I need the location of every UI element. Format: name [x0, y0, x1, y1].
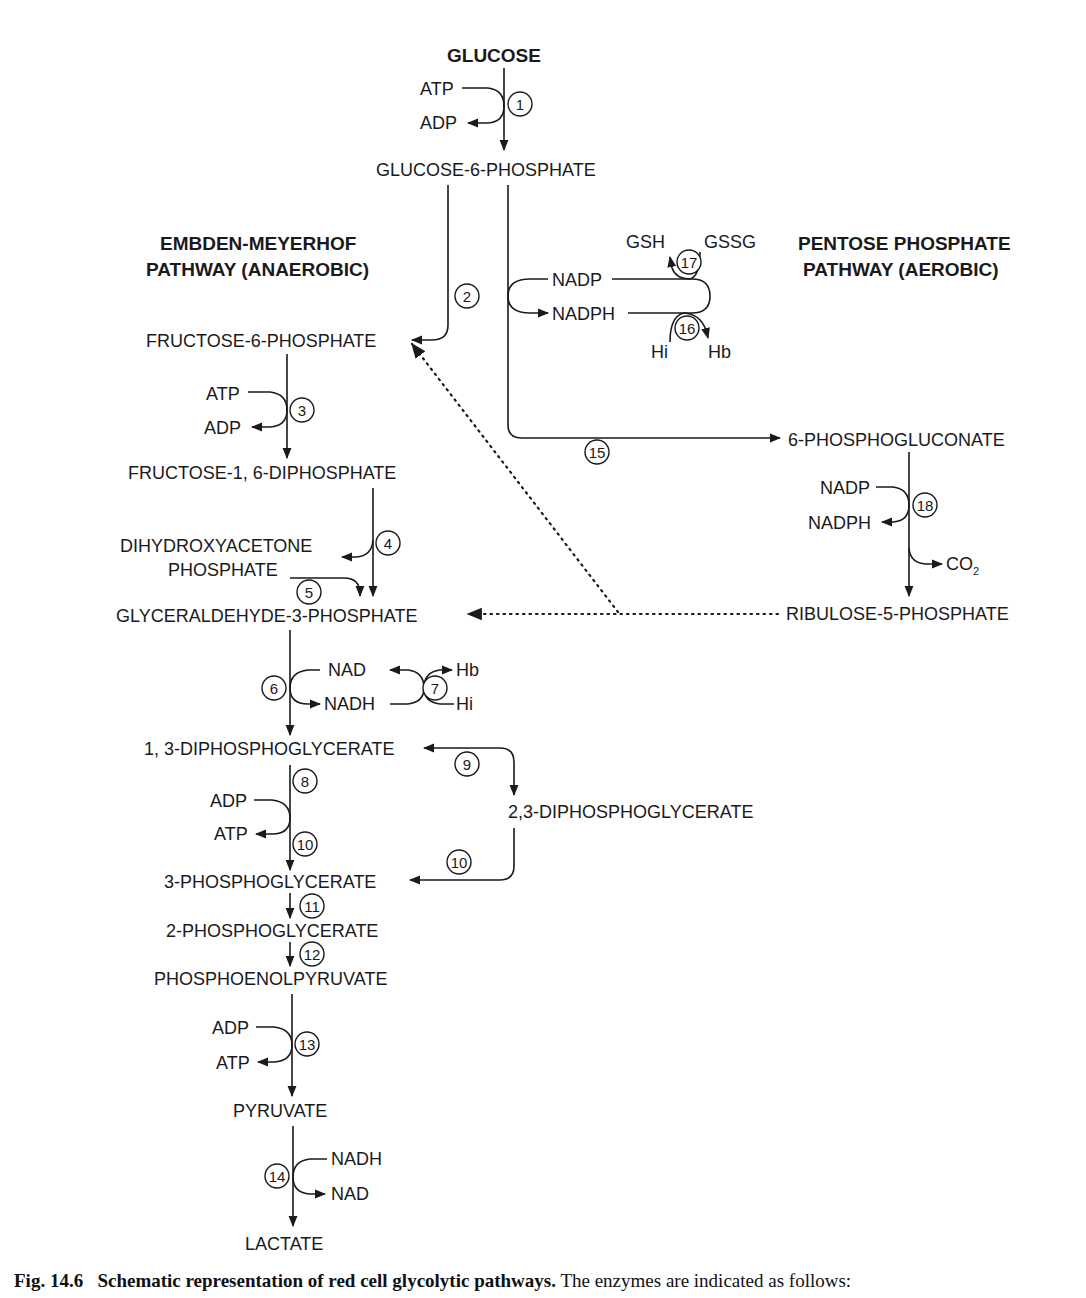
metabolite-2pg: 2-PHOSPHOGLYCERATE: [166, 921, 378, 941]
enzyme-label-7: 7: [431, 680, 439, 697]
metabolite-g6p: GLUCOSE-6-PHOSPHATE: [376, 160, 596, 180]
enzyme-label-18: 18: [917, 497, 934, 514]
nadp-nadph-cycle-line: [612, 279, 710, 313]
enzyme-label-16: 16: [679, 320, 696, 337]
cofactor-hi-7: Hi: [456, 694, 473, 714]
arrow-nadh-to-nad-7: [390, 670, 424, 704]
enzyme-label-6: 6: [270, 680, 278, 697]
cofactor-nadp-18: NADP: [820, 478, 870, 498]
metabolite-pep: PHOSPHOENOLPYRUVATE: [154, 969, 387, 989]
arrow-nadp-nadph-18: [876, 487, 909, 522]
arrow-nadp-to-nadph: [508, 279, 548, 313]
enzyme-label-4: 4: [384, 535, 392, 552]
dotted-arrow-ribulose-to-f6p: [412, 344, 618, 612]
cofactor-atp-13: ATP: [216, 1053, 250, 1073]
glycolytic-pathway-diagram: GLUCOSE EMBDEN-MEYERHOF PATHWAY (ANAEROB…: [0, 0, 1086, 1298]
enzyme-label-17: 17: [681, 254, 698, 271]
enzyme-label-5: 5: [305, 584, 313, 601]
cofactor-adp-13: ADP: [212, 1018, 249, 1038]
arrow-adp-atp-8: [254, 800, 290, 834]
metabolite-23dpg: 2,3-DIPHOSPHOGLYCERATE: [508, 802, 753, 822]
metabolite-f6p: FRUCTOSE-6-PHOSPHATE: [146, 331, 376, 351]
enzyme-label-9: 9: [463, 756, 471, 773]
cofactor-co2: CO2: [946, 554, 979, 577]
cofactor-gssg: GSSG: [704, 232, 756, 252]
heading-glucose: GLUCOSE: [447, 45, 541, 66]
enzyme-label-3: 3: [298, 402, 306, 419]
metabolite-6-phosphogluconate: 6-PHOSPHOGLUCONATE: [788, 430, 1005, 450]
cofactor-nad-14: NAD: [331, 1184, 369, 1204]
cofactor-atp-1: ATP: [420, 79, 454, 99]
enzyme-label-14: 14: [269, 1168, 286, 1185]
metabolite-pyruvate: PYRUVATE: [233, 1101, 327, 1121]
metabolite-13dpg: 1, 3-DIPHOSPHOGLYCERATE: [144, 739, 394, 759]
cofactor-nadph-loop: NADPH: [552, 304, 615, 324]
cofactor-nadh-14: NADH: [331, 1149, 382, 1169]
enzyme-label-8: 8: [301, 773, 309, 790]
cofactor-nad-6: NAD: [328, 660, 366, 680]
arrow-co2-release: [909, 548, 942, 564]
heading-ppp-line1: PENTOSE PHOSPHATE: [798, 233, 1011, 254]
cofactor-nadp-loop: NADP: [552, 270, 602, 290]
cofactor-adp-3: ADP: [204, 418, 241, 438]
enzyme-label-15: 15: [589, 444, 606, 461]
arrow-atp-adp-3: [248, 392, 287, 427]
enzyme-label-2: 2: [463, 288, 471, 305]
metabolite-3pg: 3-PHOSPHOGLYCERATE: [164, 872, 376, 892]
caption-text: The enzymes are indicated as follows:: [560, 1270, 851, 1291]
arrow-atp-adp-1: [462, 88, 504, 123]
cofactor-gsh: GSH: [626, 232, 665, 252]
metabolite-lactate: LACTATE: [245, 1234, 323, 1254]
cofactor-adp-8: ADP: [210, 791, 247, 811]
caption-label: Fig. 14.6: [14, 1270, 83, 1291]
enzyme-label-11: 11: [304, 898, 320, 915]
cofactor-hb-7: Hb: [456, 660, 479, 680]
cofactor-adp-1: ADP: [420, 113, 457, 133]
enzyme-label-12: 12: [304, 946, 321, 963]
metabolite-ribulose-5-phosphate: RIBULOSE-5-PHOSPHATE: [786, 604, 1009, 624]
heading-emp-line2: PATHWAY (ANAEROBIC): [146, 259, 369, 280]
cofactor-nadh-6: NADH: [324, 694, 375, 714]
cofactor-atp-8: ATP: [214, 824, 248, 844]
caption-title: Schematic representation of red cell gly…: [97, 1270, 556, 1291]
arrow-nadh-nad-14: [293, 1159, 327, 1194]
heading-ppp-line2: PATHWAY (AEROBIC): [803, 259, 999, 280]
cofactor-atp-3: ATP: [206, 384, 240, 404]
arrow-adp-atp-13: [256, 1027, 292, 1062]
metabolite-f16dp: FRUCTOSE-1, 6-DIPHOSPHATE: [128, 463, 396, 483]
enzyme-label-10b: 10: [451, 854, 468, 871]
enzyme-label-1: 1: [516, 96, 524, 113]
arrow-nad-nadh-6: [290, 670, 320, 704]
metabolite-g3p: GLYCERALDEHYDE-3-PHOSPHATE: [116, 606, 417, 626]
arrow-g6p-to-6pgluconate: [508, 185, 780, 438]
heading-emp-line1: EMBDEN-MEYERHOF: [160, 233, 356, 254]
enzyme-label-10a: 10: [297, 836, 314, 853]
cofactor-hb-16: Hb: [708, 342, 731, 362]
arrow-f16dp-to-dhap: [342, 540, 373, 557]
metabolite-dhap-line2: PHOSPHATE: [168, 560, 278, 580]
arrow-g6p-to-f6p: [412, 185, 448, 340]
metabolite-dhap-line1: DIHYDROXYACETONE: [120, 536, 312, 556]
figure-caption: Fig. 14.6 Schematic representation of re…: [14, 1270, 851, 1292]
enzyme-label-13: 13: [299, 1036, 316, 1053]
cofactor-nadph-18: NADPH: [808, 513, 871, 533]
cofactor-hi-16: Hi: [651, 342, 668, 362]
